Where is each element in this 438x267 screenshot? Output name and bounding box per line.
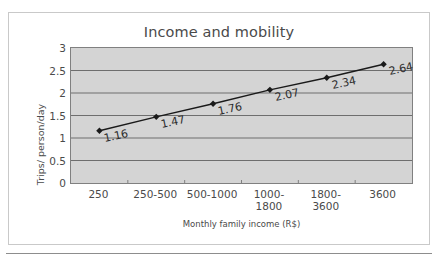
series-line — [99, 64, 383, 131]
chart-plot-svg — [71, 48, 412, 183]
y-axis-title: Trips/ person/day — [35, 90, 46, 200]
data-point-marker — [96, 128, 102, 134]
chart-title: Income and mobility — [0, 24, 438, 40]
x-axis-tick-labels: 250250-500500-10001000-18001800-36003600 — [70, 188, 413, 222]
y-axis-tick-label: 0.5 — [26, 156, 66, 167]
data-point-marker — [153, 114, 159, 120]
data-point-marker — [267, 87, 273, 93]
y-axis-tick-label: 2 — [26, 88, 66, 99]
y-axis-tick-label: 2.5 — [26, 66, 66, 77]
y-axis-tick-label: 1.5 — [26, 111, 66, 122]
y-axis-tick-label: 1 — [26, 133, 66, 144]
data-point-marker — [324, 75, 330, 81]
x-axis-tick-label: 3600 — [346, 188, 419, 200]
page-horizontal-rule — [6, 253, 432, 254]
data-point-marker — [380, 61, 386, 67]
y-axis-tick-label: 3 — [26, 43, 66, 54]
x-axis-title: Monthly family income (R$) — [70, 219, 413, 229]
plot-area — [70, 47, 413, 184]
y-axis-tick-label: 0 — [26, 178, 66, 189]
data-point-marker — [210, 101, 216, 107]
